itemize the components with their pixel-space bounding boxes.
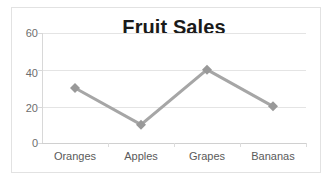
x-category-label-bananas: Bananas bbox=[240, 150, 306, 163]
y-axis-labels: 60 40 20 0 bbox=[10, 0, 38, 185]
x-tick-mark-4 bbox=[306, 143, 307, 147]
y-tick-mark-0 bbox=[38, 143, 42, 144]
y-tick-label-60: 60 bbox=[12, 28, 38, 39]
y-tick-label-20: 20 bbox=[12, 103, 38, 114]
y-tick-mark-60 bbox=[38, 33, 42, 34]
plot-area bbox=[42, 33, 306, 143]
y-tick-mark-20 bbox=[38, 107, 42, 108]
y-tick-label-40: 40 bbox=[12, 68, 38, 79]
series-polyline bbox=[75, 70, 273, 125]
x-category-label-oranges: Oranges bbox=[42, 150, 108, 163]
x-axis-labels: Oranges Apples Grapes Bananas bbox=[42, 150, 306, 163]
y-axis-line bbox=[42, 33, 43, 144]
x-tick-mark-2 bbox=[174, 143, 175, 147]
x-tick-mark-3 bbox=[240, 143, 241, 147]
y-tick-mark-40 bbox=[38, 70, 42, 71]
x-category-label-apples: Apples bbox=[108, 150, 174, 163]
series-line-fruit-sales bbox=[42, 33, 306, 143]
y-tick-label-0: 0 bbox=[12, 138, 38, 149]
x-category-label-grapes: Grapes bbox=[174, 150, 240, 163]
x-tick-mark-1 bbox=[108, 143, 109, 147]
fruit-sales-chart: Fruit Sales 60 40 20 0 Oranges Apples bbox=[0, 0, 333, 185]
